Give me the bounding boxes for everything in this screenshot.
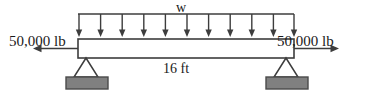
load-arrow	[249, 14, 255, 37]
support-triangle-right	[274, 58, 298, 77]
load-arrow	[141, 14, 147, 37]
beam-body	[78, 39, 294, 58]
load-arrow	[270, 14, 276, 37]
distributed-load-label: w	[176, 0, 186, 16]
load-arrow	[205, 14, 211, 37]
support-base-right	[266, 77, 308, 89]
support-triangle-left	[74, 58, 98, 77]
load-arrow	[119, 14, 125, 37]
distributed-load-arrows	[76, 14, 297, 37]
beam-diagram: w 50,000 lb 50,000 lb 16 ft	[0, 0, 373, 95]
load-arrow	[162, 14, 168, 37]
support-base-left	[66, 77, 108, 89]
span-dimension-label: 16 ft	[163, 61, 189, 77]
load-arrow	[76, 14, 82, 37]
axial-force-label-left: 50,000 lb	[9, 33, 66, 50]
load-arrow	[227, 14, 233, 37]
load-arrow	[184, 14, 190, 37]
axial-force-label-right: 50,000 lb	[277, 33, 334, 50]
load-arrow	[97, 14, 103, 37]
